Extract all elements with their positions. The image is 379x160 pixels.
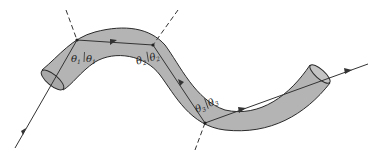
reflection-point-1 — [75, 38, 78, 41]
reflection-point-3 — [203, 121, 206, 124]
normal-line-3 — [195, 123, 205, 150]
ray-arrow-5 — [344, 68, 352, 74]
normal-line-2 — [153, 10, 178, 45]
reflection-point-2 — [151, 43, 154, 46]
angle-divider-1 — [84, 52, 85, 62]
normal-line-1 — [66, 10, 77, 40]
fiber-tube — [42, 28, 330, 131]
optical-fiber-diagram: θ1 θ1 θ2 θ2 θ3 θ3 — [0, 0, 379, 160]
